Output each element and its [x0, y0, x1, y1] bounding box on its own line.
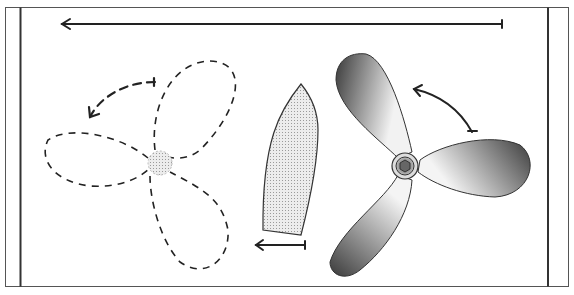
blade-bottom [330, 175, 412, 276]
propeller [330, 54, 530, 276]
boat-hull [263, 84, 318, 235]
ghost-hub [148, 151, 172, 175]
hull-arrow-icon [256, 240, 305, 250]
propeller-diagram [0, 0, 574, 295]
ghost-rotation-arrow-icon [89, 78, 155, 117]
ghost-blade-bottom [150, 172, 228, 269]
propeller-rotation-arrow-icon [414, 85, 477, 132]
ghost-blade-top [154, 61, 235, 158]
blade-top [336, 54, 412, 158]
ghost-propeller [45, 61, 235, 269]
hub-nut [400, 160, 410, 172]
top-left-arrow-icon [62, 19, 502, 29]
ghost-blade-left [45, 133, 150, 186]
blade-right [418, 140, 530, 197]
